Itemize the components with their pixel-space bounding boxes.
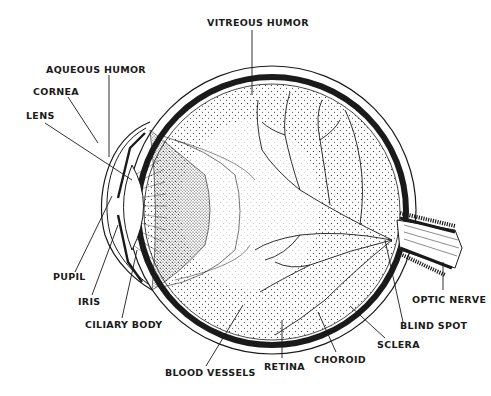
eye-diagram bbox=[0, 0, 491, 396]
label-vitreous-humor: VITREOUS HUMOR bbox=[207, 18, 309, 28]
label-ciliary-body: CILIARY BODY bbox=[85, 320, 162, 330]
label-retina: RETINA bbox=[264, 362, 305, 372]
label-lens: LENS bbox=[26, 111, 55, 121]
label-optic-nerve: OPTIC NERVE bbox=[412, 295, 486, 305]
label-aqueous-humor: AQUEOUS HUMOR bbox=[46, 65, 146, 75]
optic-nerve bbox=[397, 213, 462, 275]
label-blood-vessels: BLOOD VESSELS bbox=[165, 368, 256, 378]
label-iris: IRIS bbox=[78, 297, 100, 307]
label-choroid: CHOROID bbox=[314, 355, 366, 365]
label-blind-spot: BLIND SPOT bbox=[400, 321, 467, 331]
label-pupil: PUPIL bbox=[53, 272, 86, 282]
label-cornea: CORNEA bbox=[33, 87, 79, 97]
label-sclera: SCLERA bbox=[377, 340, 420, 350]
